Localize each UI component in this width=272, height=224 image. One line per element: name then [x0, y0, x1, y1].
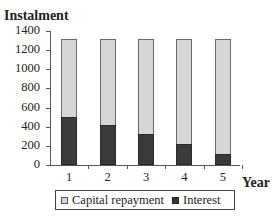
y-tick-mark: [46, 88, 50, 89]
bar-year-2: [100, 39, 116, 165]
capital-segment: [215, 39, 231, 155]
y-tick-label: 200: [0, 138, 40, 153]
y-tick-label: 800: [0, 80, 40, 95]
x-axis-label: Year: [242, 175, 270, 191]
y-tick-label: 400: [0, 119, 40, 134]
bar-year-1: [61, 39, 77, 165]
capital-segment: [176, 39, 192, 145]
legend-label-capital: Capital repayment: [72, 193, 164, 208]
x-tick-mark: [165, 165, 166, 169]
x-tick-label: 2: [98, 170, 118, 185]
legend-item-capital: Capital repayment: [61, 193, 164, 208]
x-tick-label: 3: [136, 170, 156, 185]
interest-swatch-icon: [172, 197, 179, 204]
x-tick-mark: [88, 165, 89, 169]
capital-segment: [61, 39, 77, 118]
y-tick-label: 1200: [0, 42, 40, 57]
y-axis: [50, 31, 51, 165]
x-tick-label: 5: [213, 170, 233, 185]
y-tick-label: 1000: [0, 61, 40, 76]
y-tick-mark: [46, 127, 50, 128]
bar-year-3: [138, 39, 154, 165]
y-tick-label: 1400: [0, 23, 40, 38]
y-tick-mark: [46, 31, 50, 32]
legend-item-interest: Interest: [172, 193, 220, 208]
x-tick-mark: [204, 165, 205, 169]
interest-segment: [100, 125, 116, 165]
interest-segment: [176, 144, 192, 165]
bar-year-4: [176, 39, 192, 165]
y-tick-label: 600: [0, 100, 40, 115]
capital-segment: [100, 39, 116, 126]
y-axis-label: Instalment: [4, 8, 69, 24]
y-tick-mark: [46, 50, 50, 51]
x-tick-mark: [127, 165, 128, 169]
legend: Capital repayment Interest: [55, 190, 235, 210]
y-tick-mark: [46, 165, 50, 166]
y-tick-mark: [46, 108, 50, 109]
interest-segment: [215, 154, 231, 165]
legend-label-interest: Interest: [183, 193, 220, 208]
y-tick-label: 0: [0, 157, 40, 172]
capital-segment: [138, 39, 154, 135]
y-tick-mark: [46, 146, 50, 147]
interest-segment: [138, 134, 154, 165]
x-tick-label: 1: [59, 170, 79, 185]
x-tick-mark: [242, 165, 243, 169]
capital-swatch-icon: [61, 197, 68, 204]
y-tick-mark: [46, 69, 50, 70]
interest-segment: [61, 117, 77, 165]
bar-year-5: [215, 39, 231, 165]
x-axis: [50, 165, 240, 166]
x-tick-label: 4: [174, 170, 194, 185]
